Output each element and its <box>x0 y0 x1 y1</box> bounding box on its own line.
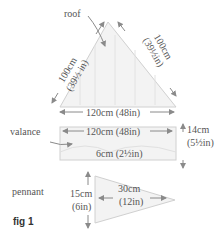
pennant-length-cm: 30cm <box>118 183 140 194</box>
diagram-shapes <box>0 0 217 248</box>
valance-height-cm: 14cm <box>187 124 209 135</box>
roof-base-dimension: 120cm (48in) <box>86 107 140 118</box>
pennant-height-in: (6in) <box>72 201 91 212</box>
pennant-length-in: (12in) <box>119 196 143 207</box>
pennant-label: pennant <box>12 186 44 197</box>
pennant-height-cm: 15cm <box>70 188 92 199</box>
valance-width-dimension: 120cm (48in) <box>86 126 140 137</box>
roof-label: roof <box>64 8 81 19</box>
figure-caption: fig 1 <box>13 216 34 227</box>
valance-scallop-dimension: 6cm (2½in) <box>96 148 143 159</box>
valance-height-in: (5½in) <box>187 137 214 148</box>
valance-label: valance <box>10 126 41 137</box>
